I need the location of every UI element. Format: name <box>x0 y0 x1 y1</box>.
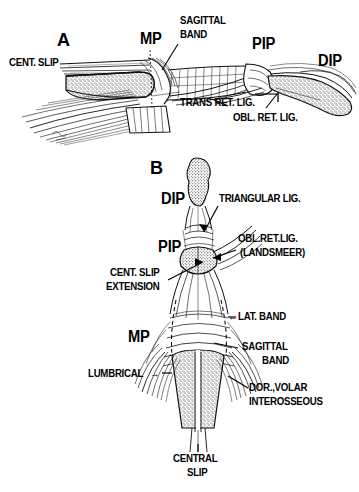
label-dor-volar: DOR.,VOLAR <box>249 381 307 393</box>
panel-b-metacarpal-bone <box>172 350 224 432</box>
label-dip-a: DIP <box>318 53 342 70</box>
label-pip-a: PIP <box>252 36 275 53</box>
artist-signature <box>52 132 67 141</box>
panel-b-central-slip-extension <box>170 270 228 320</box>
label-obl-ret-lig-a: OBL. RET. LIG. <box>233 111 298 123</box>
label-band-b: BAND <box>262 354 289 366</box>
lumbrical-arrow-icon: → <box>150 367 159 379</box>
panel-a-letter: A <box>57 30 70 50</box>
panel-b-triangular-ligament <box>183 225 215 250</box>
figure-canvas: A CENT. SLIP MP SAGITTAL BAND PIP DIP TR… <box>0 0 359 492</box>
label-lumbrical: LUMBRICAL <box>88 367 143 379</box>
lat-band-arrow-icon: ← <box>228 310 237 322</box>
panel-b-terminal-tendon <box>185 206 212 232</box>
panel-b-distal-tuft <box>187 158 210 206</box>
label-band-a: BAND <box>180 28 207 40</box>
panel-a-distal-phalanx <box>268 71 356 116</box>
label-trans-ret-lig: TRANS RET. LIG. <box>180 96 255 108</box>
leader-obl-ret-lig <box>266 94 277 108</box>
label-obl-ret-lig-b: OBL.RET.LIG. <box>238 232 298 244</box>
label-mp-b: MP <box>128 329 150 346</box>
label-landsmeer: (LANDSMEER) <box>240 246 305 258</box>
panel-b-lateral-band <box>172 300 227 356</box>
label-triangular-lig: TRIANGULAR LIG. <box>219 192 301 204</box>
label-cent-slip-a: CENT. SLIP <box>9 56 59 68</box>
panel-a-drawing <box>22 44 356 145</box>
label-sagittal-a: SAGITTAL <box>180 14 226 26</box>
label-central: CENTRAL <box>173 452 217 464</box>
label-lat-band: LAT. BAND <box>238 310 286 322</box>
label-sagittal-b: SAGITTAL <box>242 340 288 352</box>
label-cent-slip-extension: EXTENSION <box>106 280 160 292</box>
panel-a-metacarpal-bone <box>66 72 154 100</box>
panel-a-flexor-sheath <box>126 106 170 133</box>
panel-b-letter: B <box>150 158 163 178</box>
label-pip-b: PIP <box>158 239 181 256</box>
label-cent-slip-b: CENT. SLIP <box>110 266 160 278</box>
label-slip: SLIP <box>187 466 207 478</box>
leader-sagittal-band <box>162 44 178 70</box>
label-interosseous: INTEROSSEOUS <box>249 395 323 407</box>
label-mp-a: MP <box>140 31 162 48</box>
label-dip-b: DIP <box>161 191 185 208</box>
